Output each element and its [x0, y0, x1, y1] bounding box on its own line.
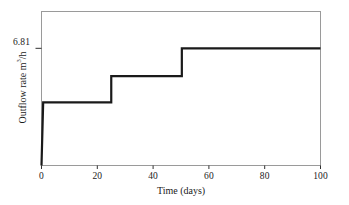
x-axis-tick-label: 60: [204, 171, 214, 181]
y-axis-title: Outflow rate m3/h: [17, 18, 28, 158]
chart-figure: 020406080100 6.81 Time (days) Outflow ra…: [0, 0, 349, 205]
chart-canvas: [0, 0, 349, 205]
x-axis-title: Time (days): [41, 185, 321, 196]
x-axis-tick-label: 100: [313, 171, 328, 181]
y-axis-title-exponent: 3: [15, 59, 22, 62]
step-curve-outflow-rate: [42, 48, 321, 165]
y-axis-title-text: Outflow rate m: [17, 62, 28, 123]
y-axis-title-suffix: /h: [17, 51, 28, 59]
x-axis-tick-label: 80: [260, 171, 270, 181]
x-axis-tick-label: 20: [92, 171, 102, 181]
x-axis-tick-label: 0: [39, 171, 44, 181]
x-axis-tick-label: 40: [148, 171, 158, 181]
x-axis-ticks: [42, 166, 321, 170]
